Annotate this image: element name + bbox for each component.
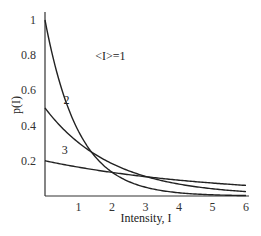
y-tick-label: 1 [30, 13, 36, 27]
curve-line [45, 161, 246, 186]
x-axis-title: Intensity, I [120, 211, 171, 225]
curve-line [45, 108, 246, 192]
x-tick-label: 1 [76, 200, 82, 214]
curve-label: 3 [62, 143, 68, 157]
y-tick-labels: 0.20.40.60.81 [21, 13, 36, 168]
x-tick-label: 2 [109, 200, 115, 214]
x-tick-label: 4 [176, 200, 182, 214]
curve-label: <I>=1 [95, 49, 125, 63]
axes [45, 12, 249, 196]
chart: 0.20.40.60.81 123456 <I>=123 Intensity, … [0, 0, 261, 236]
x-tick-label: 6 [243, 200, 249, 214]
curve-label: 2 [63, 93, 69, 107]
curve-line [45, 20, 246, 196]
curve-labels: <I>=123 [62, 49, 126, 156]
y-tick-label: 0.4 [21, 119, 36, 133]
x-tick-label: 5 [210, 200, 216, 214]
y-tick-label: 0.6 [21, 83, 36, 97]
y-tick-label: 0.2 [21, 154, 36, 168]
y-tick-label: 0.8 [21, 48, 36, 62]
curves [45, 20, 246, 196]
y-axis-title: p(I) [9, 96, 23, 114]
